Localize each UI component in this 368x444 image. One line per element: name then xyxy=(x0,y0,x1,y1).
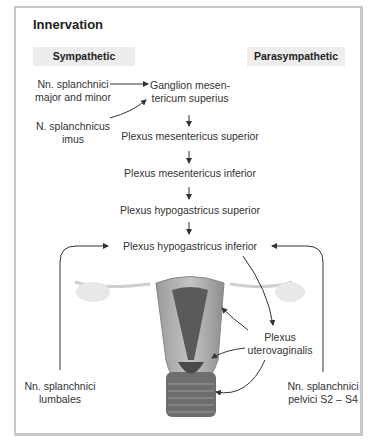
label-line: Nn. splanchnici xyxy=(20,380,100,393)
label-line: imus xyxy=(33,133,113,146)
arrow-lumbales xyxy=(60,246,108,370)
label-plexus-mesentericus-superior: Plexus mesentericus superior xyxy=(110,130,270,143)
label-splanchnici-lumbales: Nn. splanchnici lumbales xyxy=(20,380,100,406)
label-line: pelvici S2 – S4 xyxy=(278,393,368,406)
arrow-imus-to-ganglion xyxy=(110,100,146,118)
label-line: tericum superius xyxy=(150,92,230,105)
label-splanchnici-major-minor: Nn. splanchnici major and minor xyxy=(33,78,113,104)
label-line: uterovaginalis xyxy=(240,344,320,357)
label-plexus-hypogastricus-superior: Plexus hypogastricus superior xyxy=(110,204,270,217)
label-splanchnicus-imus: N. splanchnicus imus xyxy=(33,120,113,146)
label-line: Nn. splanchnici xyxy=(278,380,368,393)
label-line: N. splanchnicus xyxy=(33,120,113,133)
label-splanchnici-pelvici: Nn. splanchnici pelvici S2 – S4 xyxy=(278,380,368,406)
label-ganglion: Ganglion mesen- tericum superius xyxy=(150,79,230,105)
label-line: major and minor xyxy=(33,91,113,104)
label-line: Nn. splanchnici xyxy=(33,78,113,91)
label-line: Plexus xyxy=(240,331,320,344)
label-line: Ganglion mesen- xyxy=(150,79,230,92)
label-plexus-uterovaginalis: Plexus uterovaginalis xyxy=(240,331,320,357)
diagram-graphics xyxy=(0,0,368,444)
label-line: lumbales xyxy=(20,393,100,406)
label-plexus-mesentericus-inferior: Plexus mesentericus inferior xyxy=(110,167,270,180)
label-plexus-hypogastricus-inferior: Plexus hypogastricus inferior xyxy=(110,240,270,253)
